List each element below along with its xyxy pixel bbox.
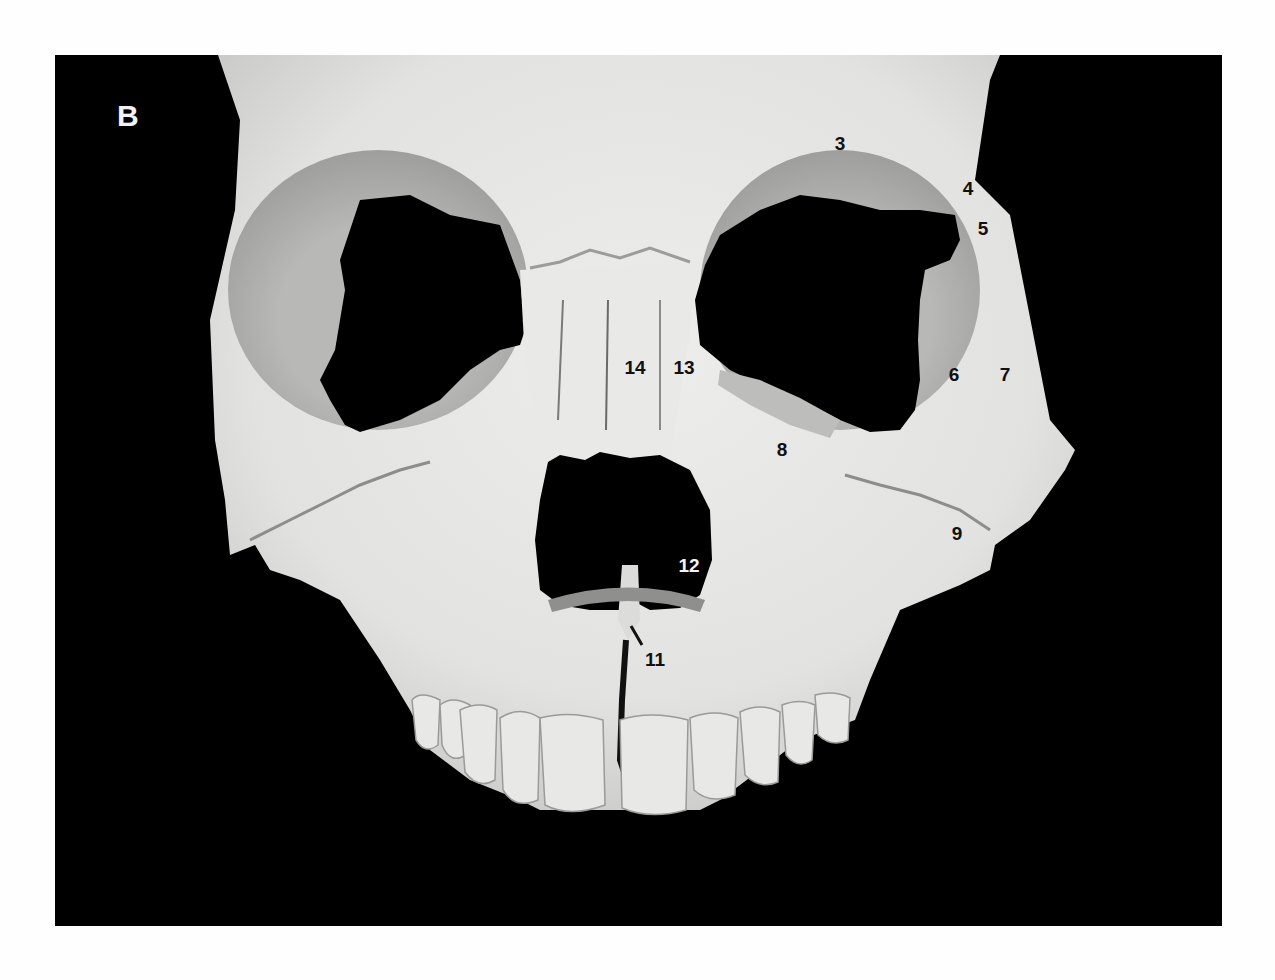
label-11: 11 xyxy=(645,650,665,669)
label-13: 13 xyxy=(673,358,694,377)
skull-photograph: B 3 4 5 6 7 8 9 11 12 13 14 xyxy=(55,55,1222,926)
label-5: 5 xyxy=(978,219,989,238)
label-7: 7 xyxy=(1000,365,1011,384)
leader-line-11 xyxy=(631,626,642,645)
label-4: 4 xyxy=(963,179,974,198)
label-14: 14 xyxy=(624,358,645,377)
label-8: 8 xyxy=(777,440,788,459)
label-3: 3 xyxy=(835,134,846,153)
leader-lines xyxy=(55,55,1222,926)
label-9: 9 xyxy=(952,524,963,543)
label-12: 12 xyxy=(678,556,699,575)
label-6: 6 xyxy=(949,365,960,384)
